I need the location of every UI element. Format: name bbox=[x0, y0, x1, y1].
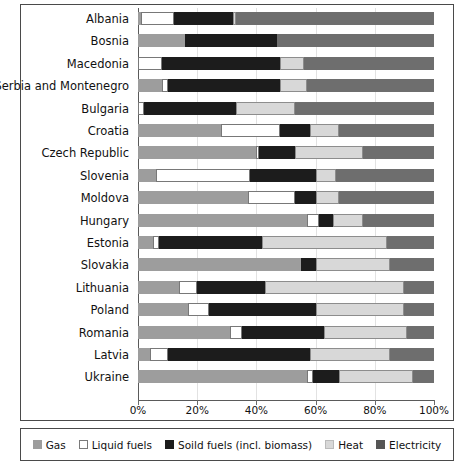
legend-swatch-liquid bbox=[79, 440, 88, 449]
bar-segment-elec bbox=[339, 124, 434, 137]
x-axis-line bbox=[138, 400, 434, 401]
chart-row: Slovakia bbox=[0, 254, 434, 276]
bar-segment-elec bbox=[404, 281, 434, 294]
bar-segment-solid bbox=[159, 236, 263, 249]
chart-row: Lithuania bbox=[0, 277, 434, 299]
bar-segment-elec bbox=[407, 326, 434, 339]
legend-label: Liquid fuels bbox=[92, 439, 152, 451]
stacked-bar bbox=[138, 191, 434, 204]
bar-segment-gas bbox=[138, 169, 156, 182]
bar-segment-elec bbox=[339, 191, 434, 204]
legend-label: Heat bbox=[338, 439, 363, 451]
x-tick-label: 0% bbox=[130, 404, 147, 416]
bar-segment-elec bbox=[307, 79, 434, 92]
stacked-bar bbox=[138, 281, 434, 294]
chart-row: Romania bbox=[0, 322, 434, 344]
category-label-albania: Albania bbox=[0, 8, 134, 30]
bar-segment-heat bbox=[316, 303, 405, 316]
stacked-bar bbox=[138, 370, 434, 383]
bar-segment-elec bbox=[236, 12, 434, 25]
bar-segment-heat bbox=[280, 57, 304, 70]
bar-segment-solid bbox=[319, 214, 334, 227]
bar-segment-solid bbox=[259, 146, 295, 159]
x-tick-label: 100% bbox=[419, 404, 449, 416]
chart-row: Serbia and Montenegro bbox=[0, 75, 434, 97]
bar-segment-heat bbox=[265, 281, 404, 294]
chart-row: Moldova bbox=[0, 187, 434, 209]
bar-segment-heat bbox=[316, 191, 340, 204]
x-tick-label: 60% bbox=[304, 404, 327, 416]
chart-row: Bosnia bbox=[0, 30, 434, 52]
chart-row: Albania bbox=[0, 8, 434, 30]
bar-segment-gas bbox=[138, 124, 221, 137]
bar-segment-solid bbox=[301, 258, 316, 271]
bar-segment-elec bbox=[363, 214, 434, 227]
category-label-lithuania: Lithuania bbox=[0, 277, 134, 299]
chart-figure: AlbaniaBosniaMacedoniaSerbia and Montene… bbox=[0, 0, 463, 467]
bar-segment-elec bbox=[404, 303, 434, 316]
bar-segment-heat bbox=[310, 124, 340, 137]
category-label-moldova: Moldova bbox=[0, 187, 134, 209]
category-label-romania: Romania bbox=[0, 322, 134, 344]
chart-row: Latvia bbox=[0, 344, 434, 366]
bar-segment-solid bbox=[197, 281, 265, 294]
bar-segment-solid bbox=[168, 79, 280, 92]
category-label-latvia: Latvia bbox=[0, 344, 134, 366]
bar-segment-liquid bbox=[141, 12, 174, 25]
bar-segment-liquid bbox=[138, 57, 162, 70]
bar-segment-elec bbox=[387, 236, 434, 249]
category-label-czech-republic: Czech Republic bbox=[0, 142, 134, 164]
stacked-bar bbox=[138, 12, 434, 25]
bar-segment-liquid bbox=[230, 326, 242, 339]
stacked-bar bbox=[138, 214, 434, 227]
x-tick-label: 20% bbox=[186, 404, 209, 416]
bar-segment-gas bbox=[138, 214, 307, 227]
chart-row: Macedonia bbox=[0, 53, 434, 75]
category-label-bulgaria: Bulgaria bbox=[0, 98, 134, 120]
bar-segment-liquid bbox=[179, 281, 197, 294]
category-label-macedonia: Macedonia bbox=[0, 53, 134, 75]
legend-items: GasLiquid fuelsSoild fuels (incl. biomas… bbox=[21, 429, 453, 460]
stacked-bar bbox=[138, 236, 434, 249]
legend-label: Gas bbox=[46, 439, 66, 451]
bar-segment-liquid bbox=[188, 303, 209, 316]
chart-row: Hungary bbox=[0, 210, 434, 232]
category-label-hungary: Hungary bbox=[0, 210, 134, 232]
bar-segment-gas bbox=[138, 79, 162, 92]
x-tick-label: 80% bbox=[363, 404, 386, 416]
bar-segment-gas bbox=[138, 146, 256, 159]
legend-label: Soild fuels (incl. biomass) bbox=[178, 439, 312, 451]
bar-segment-gas bbox=[138, 236, 153, 249]
bar-segment-solid bbox=[174, 12, 233, 25]
chart-row: Czech Republic bbox=[0, 142, 434, 164]
category-label-poland: Poland bbox=[0, 299, 134, 321]
bar-segment-heat bbox=[316, 258, 390, 271]
chart-row: Ukraine bbox=[0, 366, 434, 388]
bar-segment-solid bbox=[185, 34, 277, 47]
legend-label: Electricity bbox=[389, 439, 441, 451]
bar-segment-liquid bbox=[221, 124, 280, 137]
category-label-ukraine: Ukraine bbox=[0, 366, 134, 388]
legend-swatch-heat bbox=[325, 440, 334, 449]
chart-row: Bulgaria bbox=[0, 98, 434, 120]
category-label-slovakia: Slovakia bbox=[0, 254, 134, 276]
bar-segment-solid bbox=[209, 303, 316, 316]
bar-segment-heat bbox=[280, 79, 307, 92]
legend-item-gas: Gas bbox=[33, 439, 66, 451]
bar-segment-elec bbox=[390, 348, 434, 361]
bar-segment-solid bbox=[242, 326, 325, 339]
chart-row: Slovenia bbox=[0, 165, 434, 187]
stacked-bar bbox=[138, 326, 434, 339]
bar-segment-gas bbox=[138, 258, 301, 271]
bar-segment-heat bbox=[236, 102, 295, 115]
legend-swatch-elec bbox=[376, 440, 385, 449]
legend-swatch-solid bbox=[165, 440, 174, 449]
chart-row: Poland bbox=[0, 299, 434, 321]
category-label-slovenia: Slovenia bbox=[0, 165, 134, 187]
stacked-bar bbox=[138, 258, 434, 271]
bar-segment-heat bbox=[324, 326, 407, 339]
bar-segment-gas bbox=[138, 34, 185, 47]
bar-segment-gas bbox=[138, 191, 248, 204]
bar-segment-heat bbox=[333, 214, 363, 227]
stacked-bar bbox=[138, 303, 434, 316]
